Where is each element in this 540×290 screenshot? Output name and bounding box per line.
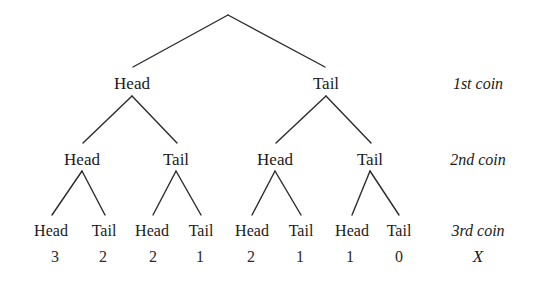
outcome-value-4: 1 xyxy=(196,248,204,265)
tree-node-tail-l2-2: Tail xyxy=(163,151,189,169)
tree-node-head-l3-7: Head xyxy=(335,222,369,240)
row-label-random-variable-x: X xyxy=(473,248,483,266)
outcome-value-2: 2 xyxy=(99,248,107,265)
tree-node-head-l3-1: Head xyxy=(34,222,68,240)
tree-branch xyxy=(275,171,301,215)
tree-branch xyxy=(153,171,176,215)
tree-node-head-l2-1: Head xyxy=(64,151,100,169)
outcome-value-6: 1 xyxy=(296,248,304,265)
tree-node-tail-l3-4: Tail xyxy=(189,222,214,240)
tree-branch xyxy=(132,96,177,143)
tree-branch xyxy=(352,171,370,215)
tree-node-tail-l3-8: Tail xyxy=(387,222,412,240)
tree-diagram-canvas: HeadTailHeadTailHeadTailHeadTailHeadTail… xyxy=(0,0,540,290)
outcome-value-8: 0 xyxy=(395,248,403,265)
tree-branch xyxy=(82,171,105,215)
tree-branch xyxy=(176,171,201,215)
tree-branch xyxy=(370,171,399,215)
row-label-1: 1st coin xyxy=(453,75,503,92)
tree-branch xyxy=(326,96,371,143)
tree-node-tail-l3-6: Tail xyxy=(289,222,314,240)
branch-group xyxy=(52,15,399,215)
tree-branch xyxy=(52,171,82,215)
tree-branch xyxy=(228,15,325,67)
tree-branch xyxy=(133,15,228,67)
outcome-value-3: 2 xyxy=(149,248,157,265)
tree-node-tail-l1-2: Tail xyxy=(313,75,339,93)
tree-branch xyxy=(83,96,132,143)
tree-node-tail-l2-4: Tail xyxy=(357,151,383,169)
row-label-2: 2nd coin xyxy=(450,151,506,168)
tree-node-head-l3-5: Head xyxy=(235,222,269,240)
outcome-value-1: 3 xyxy=(51,248,59,265)
tree-node-tail-l3-2: Tail xyxy=(92,222,117,240)
tree-branch-lines xyxy=(0,0,540,290)
outcome-value-5: 2 xyxy=(247,248,255,265)
tree-node-head-l1-1: Head xyxy=(114,75,150,93)
tree-node-head-l2-3: Head xyxy=(257,151,293,169)
tree-branch xyxy=(252,171,275,215)
outcome-value-7: 1 xyxy=(346,248,354,265)
row-label-3: 3rd coin xyxy=(451,222,504,239)
tree-branch xyxy=(276,96,326,143)
tree-node-head-l3-3: Head xyxy=(135,222,169,240)
